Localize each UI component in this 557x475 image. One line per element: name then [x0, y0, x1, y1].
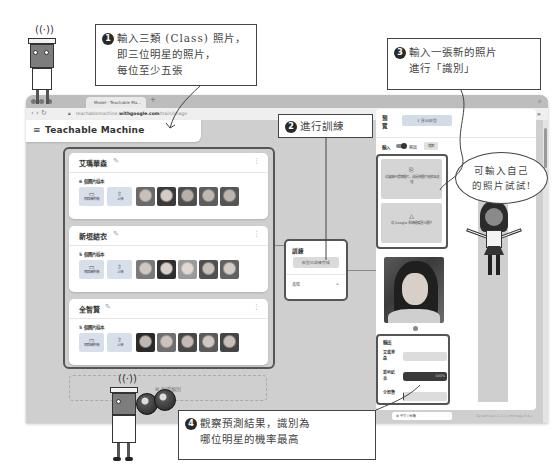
confidence-bar: [403, 392, 447, 401]
sample-count: 5 個圖片樣本: [79, 324, 104, 330]
confidence-bar: 100%: [403, 372, 447, 381]
more-options-icon[interactable]: ⋮: [253, 230, 260, 238]
image-input-area: ⎘ 從電腦中選擇圖片，或是將圖片拖放至這裡 △ 從 Google 雲端硬碟匯入圖…: [376, 154, 448, 249]
google-drive-icon: △: [384, 212, 439, 220]
output-class-label: 新垣結衣: [383, 370, 395, 381]
class-name[interactable]: 新垣結衣: [79, 231, 107, 241]
girl-mascot-area: [478, 200, 508, 402]
app-title: Teachable Machine: [45, 125, 144, 135]
pencil-icon[interactable]: ✎: [113, 157, 119, 165]
output-class-label: 全智賢: [383, 390, 395, 396]
classes-column: 艾瑪華森 ✎ ⋮ 6 個圖片樣本 ▭網路攝影機 ⇧上傳 新垣結衣 ✎: [63, 147, 275, 369]
callout-step-1: 1輸入三類 (Class) 照片， 即三位明星的照片， 每位至少五張: [95, 24, 257, 86]
output-class-label: 艾瑪華森: [383, 350, 395, 361]
class-card: 艾瑪華森 ✎ ⋮ 6 個圖片樣本 ▭網路攝影機 ⇧上傳: [69, 153, 268, 219]
browser-window: Model - Teachable Ma... + ⌕ ‹ › ↻ 🔒︎ tea…: [26, 95, 548, 423]
robot-mascot: ((·)): [14, 28, 74, 118]
more-options-icon[interactable]: ⋮: [253, 157, 260, 165]
url-text[interactable]: teachablemachine.withgoogle.com/train/im…: [76, 108, 187, 120]
sample-image[interactable]: [178, 333, 197, 352]
sample-thumbnails: [136, 260, 239, 279]
train-model-button[interactable]: 模型已訓練完成: [293, 257, 339, 268]
upload-button[interactable]: ⇧上傳: [107, 187, 132, 206]
sample-count: 5 個圖片樣本: [79, 251, 104, 257]
callout-step-2: 2進行訓練: [278, 114, 373, 138]
preview-image: [384, 257, 444, 323]
output-title: 輸出: [383, 339, 391, 345]
upload-button[interactable]: ⇧上傳: [107, 333, 132, 352]
class-card: 全智賢 ✎ ⋮ 5 個圖片樣本 ▭網路攝影機 ⇧上傳: [69, 299, 268, 365]
search-icon[interactable]: ⌕: [538, 97, 542, 105]
toggle-state: 開啟: [409, 144, 417, 150]
tab-bar: Model - Teachable Ma... + ⌕: [26, 95, 548, 108]
pencil-icon[interactable]: ✎: [113, 230, 119, 238]
sample-image[interactable]: [136, 260, 155, 279]
sample-image[interactable]: [199, 260, 218, 279]
language-select[interactable]: ⊕ 中文 (台灣): [392, 412, 452, 420]
output-panel: 輸出 艾瑪華森 新垣結衣 100% 全智賢: [376, 334, 450, 405]
sample-count: 6 個圖片樣本: [79, 178, 104, 184]
sample-image[interactable]: [178, 260, 197, 279]
upload-file-icon: ⎘: [384, 166, 439, 174]
version-text: TensorFlow.js 1.3.1 | tmimage 0.8.x: [476, 414, 532, 418]
input-label: 輸入: [382, 144, 390, 150]
sample-image[interactable]: [157, 260, 176, 279]
webcam-button[interactable]: ▭網路攝影機: [79, 333, 104, 352]
export-model-button[interactable]: ⇪ 匯出模型: [402, 115, 452, 126]
upload-button[interactable]: ⇧上傳: [107, 260, 132, 279]
speech-bubble: 可輸入自己 的照片試試!: [455, 152, 548, 204]
class-name[interactable]: 全智賢: [79, 304, 100, 314]
input-toggle[interactable]: [396, 144, 406, 148]
confidence-bar: [403, 352, 447, 361]
class-name[interactable]: 艾瑪華森: [79, 158, 107, 168]
vertical-scrollbar[interactable]: [543, 120, 548, 423]
class-card: 新垣結衣 ✎ ⋮ 5 個圖片樣本 ▭網路攝影機 ⇧上傳: [69, 226, 268, 292]
training-title: 訓練: [292, 247, 304, 255]
callout-step-3: 3輸入一張新的照片 進行「識別」: [387, 38, 541, 90]
connector-dot: [413, 326, 418, 331]
sample-image[interactable]: [220, 260, 239, 279]
chevron-down-icon[interactable]: ⌄: [335, 279, 340, 286]
input-source-select[interactable]: 檔案: [424, 142, 438, 150]
robot-binoculars-mascot: ((·)): [108, 375, 188, 470]
sample-image[interactable]: [199, 333, 218, 352]
sample-image[interactable]: [220, 187, 239, 206]
more-options-icon[interactable]: ⋮: [253, 303, 260, 311]
pencil-icon[interactable]: ✎: [105, 303, 111, 311]
menu-icon[interactable]: ≡: [33, 125, 41, 135]
sample-image[interactable]: [178, 187, 197, 206]
sample-thumbnails: [136, 187, 239, 206]
google-drive-import-button[interactable]: △ 從 Google 雲端硬碟匯入圖片: [381, 203, 442, 243]
webcam-button[interactable]: ▭網路攝影機: [79, 187, 104, 206]
sample-image[interactable]: [136, 187, 155, 206]
sample-image[interactable]: [220, 333, 239, 352]
webcam-button[interactable]: ▭網路攝影機: [79, 260, 104, 279]
sample-thumbnails: [136, 333, 239, 352]
training-panel: 訓練 模型已訓練完成 進階 ⌄: [284, 239, 348, 301]
callout-step-4: 4觀察預測結果，識別為 哪位明星的機率最高: [178, 410, 376, 460]
advanced-toggle[interactable]: 進階: [292, 281, 300, 287]
sample-image[interactable]: [157, 187, 176, 206]
app-header: ≡ Teachable Machine: [26, 120, 201, 142]
connector-line: [275, 245, 284, 246]
sample-image[interactable]: [136, 333, 155, 352]
new-tab-button[interactable]: +: [150, 96, 156, 104]
connector-line: [348, 270, 376, 271]
file-drop-zone[interactable]: ⎘ 從電腦中選擇圖片，或是將圖片拖放至這裡: [381, 159, 442, 199]
browser-tab[interactable]: Model - Teachable Ma...: [86, 97, 146, 108]
sample-image[interactable]: [157, 333, 176, 352]
preview-title: 預覽: [382, 114, 390, 131]
sample-image[interactable]: [199, 187, 218, 206]
